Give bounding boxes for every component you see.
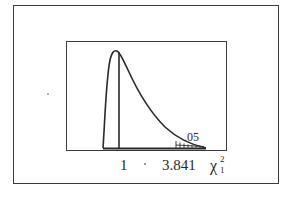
axis-subscript: 1 [220,166,225,175]
speck [47,93,49,95]
axis-label-chi-square: χ 2 1 [210,158,217,174]
tick-label-1: 1 [120,158,128,173]
axis-superscript: 2 [220,155,225,164]
tick-label-critical-value: 3.841 [162,158,196,173]
chi-square-density-plot [0,0,290,198]
tail-area-label: .05 [184,131,199,143]
axis-symbol: χ [210,157,217,174]
speck [144,163,146,165]
